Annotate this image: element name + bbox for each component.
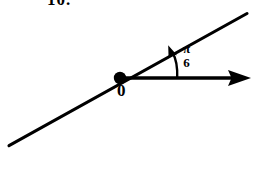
angle-numerator: π bbox=[183, 42, 190, 56]
angle-arc bbox=[173, 53, 178, 78]
origin-label: 0 bbox=[117, 82, 126, 99]
angle-measure-label: π 6 bbox=[183, 42, 190, 69]
angle-denominator: 6 bbox=[183, 56, 190, 70]
problem-number-label: 10. bbox=[47, 0, 71, 8]
angle-diagram-figure: 10. 0 π 6 bbox=[0, 0, 257, 175]
diagram-canvas bbox=[0, 0, 257, 175]
